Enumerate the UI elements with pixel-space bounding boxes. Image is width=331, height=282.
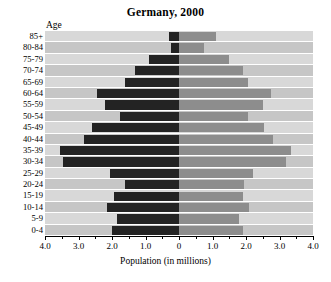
y-tick-label: 55-59 xyxy=(1,99,43,110)
y-tick-label: 15-19 xyxy=(1,190,43,201)
bar-male-60-64 xyxy=(97,89,179,98)
bar-female-20-24 xyxy=(179,180,244,189)
chart-title: Germany, 2000 xyxy=(0,6,331,18)
bar-female-40-44 xyxy=(179,135,273,144)
x-tick-minor xyxy=(196,236,197,239)
bar-male-45-49 xyxy=(92,123,179,132)
x-tick-label: 3.0 xyxy=(64,241,94,251)
bar-female-30-34 xyxy=(179,157,286,166)
y-tick-label: 25-29 xyxy=(1,168,43,179)
bar-female-60-64 xyxy=(179,89,271,98)
bar-female-85+ xyxy=(179,32,216,41)
y-tick-label: 35-39 xyxy=(1,145,43,156)
bar-male-5-9 xyxy=(117,214,179,223)
bar-male-75-79 xyxy=(149,55,179,64)
bar-female-25-29 xyxy=(179,169,253,178)
bar-female-0-4 xyxy=(179,226,243,235)
y-tick-label: 30-34 xyxy=(1,156,43,167)
bar-male-0-4 xyxy=(112,226,179,235)
bar-female-80-84 xyxy=(179,43,204,52)
x-tick xyxy=(280,236,281,240)
bar-female-5-9 xyxy=(179,214,239,223)
x-tick-label: 2.0 xyxy=(97,241,127,251)
bar-male-25-29 xyxy=(110,169,179,178)
y-tick-label: 60-64 xyxy=(1,88,43,99)
bar-male-15-19 xyxy=(114,192,179,201)
x-tick-minor xyxy=(95,236,96,239)
x-tick-label: 3.0 xyxy=(265,241,295,251)
bar-male-20-24 xyxy=(125,180,179,189)
y-tick-label: 80-84 xyxy=(1,42,43,53)
y-tick-label: 65-69 xyxy=(1,77,43,88)
x-tick-minor xyxy=(296,236,297,239)
y-tick-label: 45-49 xyxy=(1,122,43,133)
bar-male-50-54 xyxy=(120,112,179,121)
y-tick-label: 85+ xyxy=(1,31,43,42)
bar-male-35-39 xyxy=(60,146,179,155)
bar-male-85+ xyxy=(169,32,179,41)
plot-area: Males Females xyxy=(45,31,313,236)
x-tick xyxy=(45,236,46,240)
x-tick-label: 0 xyxy=(164,241,194,251)
x-tick xyxy=(213,236,214,240)
x-tick xyxy=(179,236,180,240)
x-tick-minor xyxy=(62,236,63,239)
y-tick-label: 70-74 xyxy=(1,65,43,76)
bar-female-35-39 xyxy=(179,146,291,155)
y-tick-label: 5-9 xyxy=(1,213,43,224)
y-tick-label: 20-24 xyxy=(1,179,43,190)
x-tick-minor xyxy=(263,236,264,239)
x-tick-minor xyxy=(229,236,230,239)
y-axis-labels: 85+80-8475-7970-7465-6960-6455-5950-5445… xyxy=(0,31,43,236)
bar-female-15-19 xyxy=(179,192,243,201)
x-tick-label: 1.0 xyxy=(131,241,161,251)
x-tick xyxy=(79,236,80,240)
x-tick-minor xyxy=(162,236,163,239)
x-tick-minor xyxy=(129,236,130,239)
bar-male-30-34 xyxy=(63,157,179,166)
x-tick-label: 4.0 xyxy=(30,241,60,251)
bar-female-45-49 xyxy=(179,123,264,132)
x-tick xyxy=(246,236,247,240)
x-tick xyxy=(146,236,147,240)
y-tick-label: 75-79 xyxy=(1,54,43,65)
x-axis-title: Population (in millions) xyxy=(0,256,331,266)
bar-male-10-14 xyxy=(107,203,179,212)
bar-male-70-74 xyxy=(135,66,179,75)
x-tick xyxy=(313,236,314,240)
bar-male-80-84 xyxy=(171,43,179,52)
bar-female-10-14 xyxy=(179,203,249,212)
y-tick-label: 0-4 xyxy=(1,225,43,236)
y-tick-label: 10-14 xyxy=(1,202,43,213)
y-tick-label: 40-44 xyxy=(1,134,43,145)
x-tick-label: 2.0 xyxy=(231,241,261,251)
x-tick xyxy=(112,236,113,240)
bar-female-75-79 xyxy=(179,55,229,64)
x-tick-label: 1.0 xyxy=(198,241,228,251)
bar-male-40-44 xyxy=(84,135,179,144)
bar-female-65-69 xyxy=(179,78,248,87)
bar-female-70-74 xyxy=(179,66,243,75)
bar-female-50-54 xyxy=(179,112,248,121)
bar-male-55-59 xyxy=(105,100,179,109)
y-tick-label: 50-54 xyxy=(1,111,43,122)
bar-female-55-59 xyxy=(179,100,263,109)
bar-male-65-69 xyxy=(125,78,179,87)
y-axis-title: Age xyxy=(46,20,62,30)
population-pyramid-chart: Germany, 2000 Age 85+80-8475-7970-7465-6… xyxy=(0,0,331,282)
x-tick-label: 4.0 xyxy=(298,241,328,251)
